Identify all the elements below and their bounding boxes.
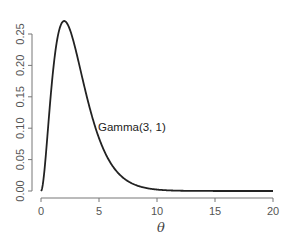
curve-annotation-label: Gamma(3, 1) — [98, 121, 166, 133]
x-tick-label: 15 — [209, 205, 221, 217]
gamma-density-curve — [41, 21, 273, 191]
y-tick-label: 0.00 — [14, 180, 26, 201]
y-tick-label: 0.25 — [14, 23, 26, 44]
x-tick-label: 10 — [151, 205, 163, 217]
x-tick-label: 20 — [267, 205, 279, 217]
x-axis-ticks: 05101520 — [38, 198, 279, 217]
axes — [32, 34, 273, 198]
x-axis-label: θ — [157, 220, 165, 235]
y-tick-label: 0.05 — [14, 149, 26, 170]
gamma-density-chart: 0.000.050.100.150.200.25 05101520 Gamma(… — [0, 0, 297, 239]
x-tick-label: 0 — [38, 205, 44, 217]
y-axis-ticks: 0.000.050.100.150.200.25 — [14, 23, 32, 201]
x-tick-label: 5 — [96, 205, 102, 217]
y-tick-label: 0.20 — [14, 55, 26, 76]
y-tick-label: 0.15 — [14, 86, 26, 107]
y-tick-label: 0.10 — [14, 117, 26, 138]
